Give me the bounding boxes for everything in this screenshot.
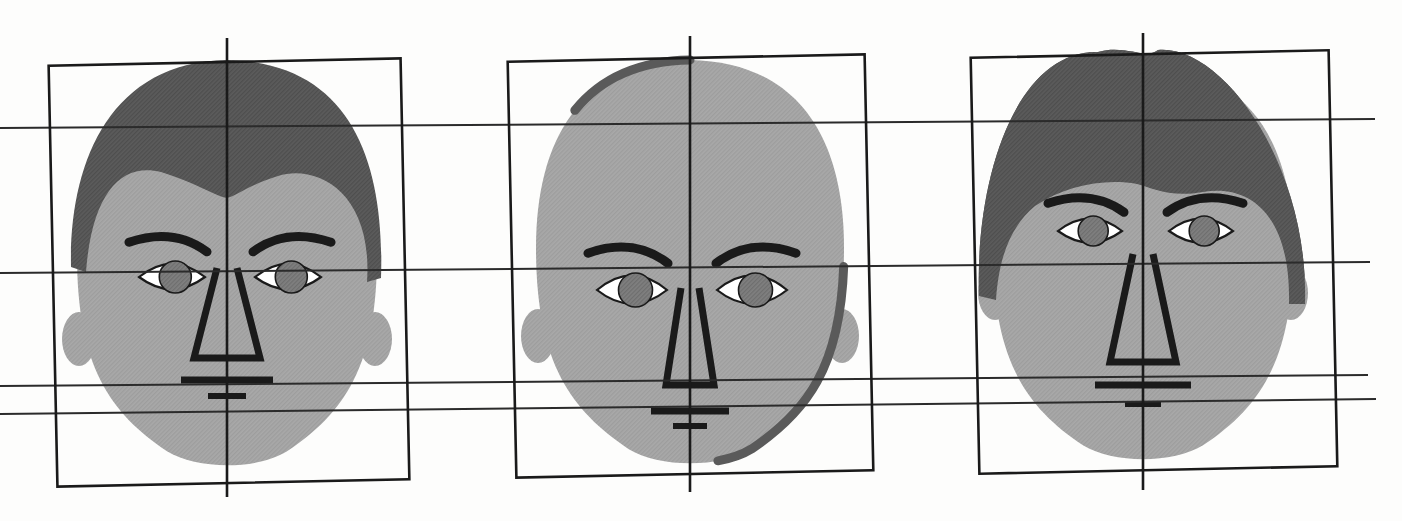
eye-left-iris: [159, 261, 191, 293]
figure-canvas: [0, 0, 1402, 521]
eye-right-iris: [275, 261, 307, 293]
face-proportion-figure: [0, 0, 1402, 521]
eye-right-iris: [1189, 216, 1219, 246]
eye-left-iris: [1078, 216, 1108, 246]
eye-left-iris: [619, 273, 653, 307]
faces-layer: [62, 50, 1308, 466]
eye-right-iris: [739, 273, 773, 307]
